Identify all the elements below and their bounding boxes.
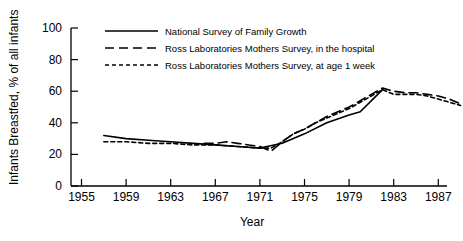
x-tick-label-1979: 1979	[336, 190, 363, 204]
breastfeeding-trend-chart: Infants Breastfed, % of all infants 100 …	[0, 0, 463, 241]
x-axis-title: Year	[240, 215, 264, 229]
x-tick-label-1967: 1967	[202, 190, 229, 204]
y-tick-label-60: 60	[49, 84, 63, 98]
series-ross-at-age-1-week	[104, 90, 461, 148]
y-tick-label-0: 0	[55, 179, 62, 193]
legend-label-2: Ross Laboratories Mothers Survey, at age…	[165, 60, 375, 71]
x-tick-label-1975: 1975	[291, 190, 318, 204]
chart-container: Infants Breastfed, % of all infants 100 …	[0, 0, 463, 241]
x-tick-label-1987: 1987	[425, 190, 452, 204]
series-ross-in-the-hospital	[204, 88, 460, 151]
legend-label-1: Ross Laboratories Mothers Survey, in the…	[165, 43, 374, 54]
y-axis-ticks	[71, 28, 78, 186]
x-tick-label-1971: 1971	[247, 190, 274, 204]
series-group	[104, 88, 461, 151]
x-tick-label-1955: 1955	[68, 190, 95, 204]
y-axis-title: Infants Breastfed, % of all infants	[7, 10, 21, 185]
y-tick-label-20: 20	[49, 147, 63, 161]
y-tick-label-80: 80	[49, 53, 63, 67]
legend: National Survey of Family Growth Ross La…	[105, 26, 375, 71]
x-tick-label-1963: 1963	[157, 190, 184, 204]
x-tick-label-1983: 1983	[380, 190, 407, 204]
y-tick-label-40: 40	[49, 116, 63, 130]
y-tick-label-100: 100	[42, 21, 62, 35]
x-axis-ticks	[82, 179, 439, 186]
series-national-survey-of-family-growth	[104, 90, 383, 148]
legend-label-0: National Survey of Family Growth	[165, 26, 307, 37]
x-tick-label-1959: 1959	[113, 190, 140, 204]
